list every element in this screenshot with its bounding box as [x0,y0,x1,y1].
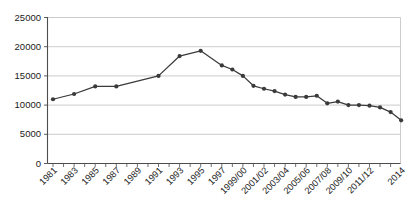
y-axis [44,17,48,164]
x-tick-label-1987: 1987 [101,165,123,187]
grid-lines [48,18,401,164]
data-point-2014 [399,118,403,122]
data-point-2012-13 [378,105,382,109]
x-tick-label-1981: 1981 [37,165,59,187]
x-tick-label-2014: 2014 [386,165,408,187]
y-tick-label-10000: 10000 [15,99,41,110]
data-point-2013-14 [389,110,393,114]
data-point-markers [51,49,403,123]
line-chart: 0500010000150002000025000 19811983198519… [0,0,413,219]
data-point-1985 [93,84,97,88]
data-point-2009-10 [346,103,350,107]
data-point-2002-03 [272,89,276,93]
data-point-2006-07 [315,94,319,98]
data-point-1998 [230,67,234,71]
x-axis-tick-labels: 1981198319851987198919911993199519971999… [37,165,407,196]
data-point-2005-06 [304,95,308,99]
data-point-1981 [51,97,55,101]
data-point-2004-05 [294,95,298,99]
x-tick-label-1985: 1985 [80,165,102,187]
y-tick-label-5000: 5000 [20,128,41,139]
data-point-2000-01 [251,84,255,88]
data-point-1983 [72,92,76,96]
data-point-1997 [220,63,224,67]
x-tick-label-1991: 1991 [143,165,165,187]
data-point-1991 [156,74,160,78]
x-tick-label-1983: 1983 [58,165,80,187]
data-point-1987 [114,84,118,88]
y-tick-label-0: 0 [36,158,41,169]
x-tick-label-1995: 1995 [185,165,207,187]
data-point-2008-09 [336,100,340,104]
data-point-1999-00 [241,74,245,78]
data-point-2007-08 [325,101,329,105]
data-point-1993 [178,54,182,58]
x-tick-label-1993: 1993 [164,165,186,187]
series-line-path [53,51,401,120]
y-tick-label-15000: 15000 [15,70,41,81]
y-tick-label-20000: 20000 [15,41,41,52]
chart-canvas: 0500010000150002000025000 19811983198519… [0,0,413,219]
data-point-2011-12 [367,104,371,108]
x-tick-label-1989: 1989 [122,165,144,187]
data-point-1995 [199,49,203,53]
data-point-2003-04 [283,92,287,96]
data-point-2001-02 [262,87,266,91]
data-series-line [53,51,401,120]
data-point-2010-11 [357,103,361,107]
y-tick-label-25000: 25000 [15,12,41,23]
y-axis-tick-labels: 0500010000150002000025000 [15,12,41,169]
